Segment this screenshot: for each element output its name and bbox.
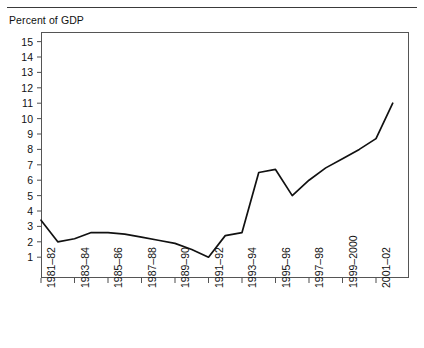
y-tick-label: 9 — [9, 128, 33, 140]
x-tick-label: 1999–2000 — [347, 235, 359, 288]
x-tick-label: 1997–98 — [313, 247, 325, 288]
chart-figure: Percent of GDP 123456789101112131415 198… — [0, 0, 424, 348]
x-tick-label: 1985–86 — [112, 247, 124, 288]
y-tick-label: 8 — [9, 143, 33, 155]
y-tick-label: 2 — [9, 236, 33, 248]
x-tick-label: 1989–90 — [179, 247, 191, 288]
y-tick-label: 4 — [9, 205, 33, 217]
x-tick-label: 1983–84 — [79, 247, 91, 288]
y-tick-label: 15 — [9, 36, 33, 48]
y-tick-label: 6 — [9, 174, 33, 186]
y-tick-label: 12 — [9, 82, 33, 94]
y-tick-label: 5 — [9, 190, 33, 202]
y-tick-label: 14 — [9, 51, 33, 63]
x-tick-label: 1987–88 — [146, 247, 158, 288]
data-series-line — [41, 103, 393, 257]
y-tick-label: 13 — [9, 66, 33, 78]
y-tick-label: 7 — [9, 159, 33, 171]
y-tick-marks-group — [37, 42, 41, 258]
x-tick-label: 1981–82 — [45, 247, 57, 288]
x-tick-label: 1995–96 — [280, 247, 292, 288]
x-tick-label: 1991–92 — [213, 247, 225, 288]
plot-svg-layer — [0, 0, 424, 348]
x-tick-label: 2001–02 — [380, 247, 392, 288]
y-tick-label: 1 — [9, 251, 33, 263]
x-tick-marks-group — [41, 278, 376, 283]
y-tick-label: 10 — [9, 113, 33, 125]
x-tick-label: 1993–94 — [246, 247, 258, 288]
y-tick-label: 3 — [9, 220, 33, 232]
y-tick-label: 11 — [9, 97, 33, 109]
